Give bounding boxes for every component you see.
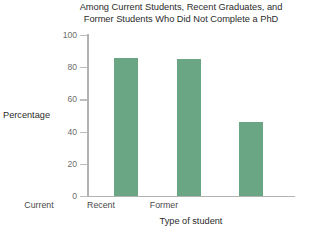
x-tick-label-recent: Recent [66,200,136,210]
y-tick-label: 100 [63,30,77,40]
y-tick-mark [80,196,87,197]
bar-chart-figure: Among Current Students, Recent Graduates… [0,0,310,237]
bar-current [114,58,138,196]
chart-title-line-2: Former Students Who Did Not Complete a P… [62,13,300,25]
bar-former [239,122,263,196]
y-tick-label: 80 [67,62,77,72]
y-tick-label: 40 [67,127,77,137]
x-tick-label-current: Current [4,200,74,210]
bar-recent [177,59,201,196]
chart-title-line-1: Among Current Students, Recent Graduates… [62,1,300,13]
y-tick-mark [80,35,87,36]
plot-area: 0 20 40 60 80 100 [87,35,295,196]
y-tick-mark [80,132,87,133]
chart-title: Among Current Students, Recent Graduates… [62,1,300,26]
y-tick-mark [80,67,87,68]
y-tick-label: 20 [67,159,77,169]
y-tick-mark [80,99,87,100]
x-tick-label-former: Former [129,200,199,210]
y-tick-label: 60 [67,94,77,104]
y-axis-title: Percentage [3,110,50,120]
y-tick-mark [80,164,87,165]
x-axis-title: Type of student [87,216,295,226]
